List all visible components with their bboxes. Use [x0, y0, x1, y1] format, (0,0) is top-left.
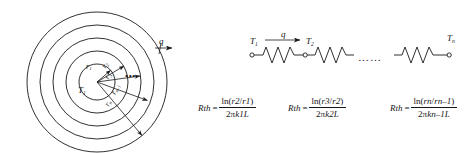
- equation-3-numerator: ln(rn/rn–1): [411, 96, 458, 106]
- ellipsis-network: ……: [358, 52, 382, 63]
- network-node-label-t1: T1: [250, 37, 258, 47]
- equation-1-fraction-bar: [219, 107, 257, 108]
- resistor-network: [250, 47, 451, 63]
- resistor-1: [254, 47, 303, 63]
- equation-3-fraction-bar: [411, 107, 458, 108]
- center-temperature-label: T1: [78, 86, 86, 96]
- equation-1-equals: =: [213, 103, 218, 113]
- equation-1-fraction: ln(r2/r1) 2πk1L: [219, 96, 257, 119]
- equation-1-numerator: ln(r2/r1): [219, 96, 257, 106]
- equation-thermal-resistance-3: Rth = ln(rn/rn–1) 2πkn–1L: [390, 96, 457, 119]
- equation-2-fraction-bar: [309, 107, 347, 108]
- equation-2-denominator: 2πk2L: [313, 109, 342, 119]
- equation-thermal-resistance-2: Rth = ln(r3/r2) 2πk2L: [288, 96, 346, 119]
- radius-label-r1: r1: [86, 63, 92, 72]
- equation-2-fraction: ln(r3/r2) 2πk2L: [309, 96, 347, 119]
- network-node-label-t2: T2: [306, 37, 314, 47]
- equation-3-fraction: ln(rn/rn–1) 2πkn–1L: [411, 96, 458, 119]
- heat-flux-label-circle: q: [159, 37, 164, 46]
- equation-thermal-resistance-1: Rth = ln(r2/r1) 2πk1L: [198, 96, 256, 119]
- figure-canvas: [0, 0, 474, 153]
- equation-3-lhs: Rth: [390, 103, 403, 113]
- equation-1-lhs: Rth: [198, 103, 211, 113]
- heat-flux-label-network: q: [281, 30, 286, 39]
- resistor-3: [394, 47, 447, 63]
- equation-2-equals: =: [303, 103, 308, 113]
- resistor-2: [307, 47, 354, 63]
- equation-3-denominator: 2πkn–1L: [415, 109, 453, 119]
- equation-3-equals: =: [405, 103, 410, 113]
- equation-2-lhs: Rth: [288, 103, 301, 113]
- node-terminal-t2: [303, 53, 307, 57]
- equation-2-numerator: ln(r3/r2): [309, 96, 347, 106]
- node-terminal-t1: [250, 53, 254, 57]
- network-node-label-tn: Tn: [447, 34, 455, 44]
- equation-1-denominator: 2πk1L: [223, 109, 252, 119]
- ellipsis-circle-diagram: •••: [125, 72, 136, 81]
- node-terminal-tn: [447, 53, 451, 57]
